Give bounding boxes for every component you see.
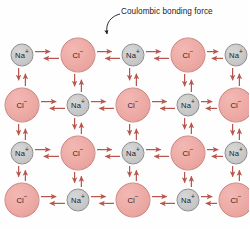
ion-sodium: Na+ <box>177 94 200 117</box>
ion-sodium: Na+ <box>67 189 90 212</box>
ion-chloride: Cl− <box>61 38 96 73</box>
ion-label: Cl− <box>230 101 241 110</box>
ion-charge: − <box>80 146 84 153</box>
ion-chloride: Cl− <box>61 136 96 171</box>
ion-charge: − <box>24 193 28 200</box>
ion-label: Cl− <box>127 101 138 110</box>
ion-sodium: Na+ <box>11 44 34 67</box>
ion-chloride: Cl− <box>171 38 206 73</box>
ion-label: Cl− <box>230 196 241 205</box>
ion-label: Na+ <box>126 51 140 60</box>
ion-chloride: Cl− <box>219 88 250 123</box>
ion-charge: + <box>136 48 140 55</box>
ion-charge: − <box>190 146 194 153</box>
coulombic-bonding-figure: Coulombic bonding force Na+Cl−Na+Cl−Na+C… <box>0 0 249 229</box>
ion-label: Cl− <box>72 51 83 60</box>
ion-label: Na+ <box>181 101 195 110</box>
ion-label: Cl− <box>72 149 83 158</box>
ion-sodium: Na+ <box>225 44 248 67</box>
ion-charge: + <box>191 193 195 200</box>
ion-sodium: Na+ <box>122 142 145 165</box>
ion-charge: + <box>191 98 195 105</box>
ion-label: Na+ <box>229 149 243 158</box>
ion-label: Cl− <box>127 196 138 205</box>
ion-label: Na+ <box>15 51 29 60</box>
ion-label: Cl− <box>16 101 27 110</box>
ion-label: Cl− <box>16 196 27 205</box>
ion-charge: + <box>81 193 85 200</box>
ion-label: Na+ <box>71 196 85 205</box>
ion-charge: − <box>238 98 242 105</box>
ion-label: Na+ <box>229 51 243 60</box>
ion-chloride: Cl− <box>171 136 206 171</box>
ion-charge: + <box>239 146 243 153</box>
ion-charge: − <box>135 98 139 105</box>
ion-chloride: Cl− <box>116 88 151 123</box>
ion-sodium: Na+ <box>11 142 34 165</box>
ion-label: Na+ <box>181 196 195 205</box>
ion-charge: − <box>24 98 28 105</box>
ion-chloride: Cl− <box>5 183 40 218</box>
ion-label: Cl− <box>182 51 193 60</box>
ion-chloride: Cl− <box>219 183 250 218</box>
ion-charge: − <box>238 193 242 200</box>
ion-label: Na+ <box>15 149 29 158</box>
ion-charge: − <box>135 193 139 200</box>
ion-sodium: Na+ <box>122 44 145 67</box>
ion-label: Na+ <box>71 101 85 110</box>
ion-charge: + <box>25 48 29 55</box>
ion-label: Na+ <box>126 149 140 158</box>
ion-charge: + <box>239 48 243 55</box>
ion-sodium: Na+ <box>225 142 248 165</box>
ion-label: Cl− <box>182 149 193 158</box>
ion-chloride: Cl− <box>116 183 151 218</box>
ion-sodium: Na+ <box>67 94 90 117</box>
ion-charge: − <box>190 48 194 55</box>
ion-sodium: Na+ <box>177 189 200 212</box>
ion-charge: + <box>81 98 85 105</box>
ion-charge: − <box>80 48 84 55</box>
ion-charge: + <box>25 146 29 153</box>
ion-charge: + <box>136 146 140 153</box>
ion-chloride: Cl− <box>5 88 40 123</box>
